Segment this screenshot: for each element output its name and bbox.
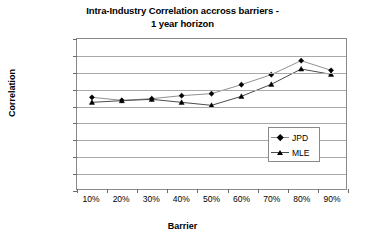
x-axis-tick	[197, 189, 198, 193]
x-axis-tick	[167, 189, 168, 193]
gridline	[77, 123, 346, 124]
y-axis-tick	[73, 90, 77, 91]
chart-legend: JPD MLE	[268, 127, 320, 162]
legend-marker-triangle-icon	[269, 147, 291, 159]
x-axis-tick	[288, 189, 289, 193]
x-axis-tick	[348, 189, 349, 193]
y-axis-tick	[73, 73, 77, 74]
data-point-mle-70	[269, 82, 274, 87]
data-point-jpd-40	[179, 93, 184, 98]
gridline	[77, 174, 346, 175]
plot-area	[76, 38, 347, 190]
x-axis-title: Barrier	[0, 221, 365, 231]
legend-label-jpd: JPD	[291, 133, 308, 143]
y-axis-tick	[73, 39, 77, 40]
gridline	[77, 107, 346, 108]
y-axis-tick	[73, 107, 77, 108]
legend-label-mle: MLE	[291, 148, 309, 158]
x-axis-tick	[258, 189, 259, 193]
data-point-jpd-50	[209, 91, 214, 96]
gridline	[77, 73, 346, 74]
chart-container: Intra-Industry Correlation accross barri…	[0, 0, 365, 242]
gridline	[77, 56, 346, 57]
data-series-layer	[77, 39, 346, 189]
y-axis-tick	[73, 157, 77, 158]
gridline	[77, 90, 346, 91]
y-axis-tick	[73, 123, 77, 124]
legend-item-jpd: JPD	[269, 130, 321, 145]
x-axis-tick	[77, 189, 78, 193]
y-axis-title: Correlation	[7, 48, 17, 138]
data-point-mle-80	[299, 66, 304, 71]
x-axis-tick	[318, 189, 319, 193]
y-axis-tick	[73, 174, 77, 175]
x-axis-tick	[107, 189, 108, 193]
chart-title-line-1: Intra-Industry Correlation accross barri…	[0, 5, 365, 18]
legend-marker-diamond-icon	[269, 132, 291, 144]
chart-title: Intra-Industry Correlation accross barri…	[0, 5, 365, 30]
x-axis-tick	[137, 189, 138, 193]
data-point-jpd-60	[239, 82, 244, 87]
y-axis-tick	[73, 140, 77, 141]
legend-item-mle: MLE	[269, 145, 321, 160]
x-axis-tick	[228, 189, 229, 193]
data-point-jpd-80	[299, 58, 304, 63]
y-axis-tick	[73, 56, 77, 57]
data-point-jpd-10	[89, 95, 94, 100]
x-axis-tick-label: 90%	[312, 194, 352, 204]
chart-title-line-2: 1 year horizon	[0, 18, 365, 31]
